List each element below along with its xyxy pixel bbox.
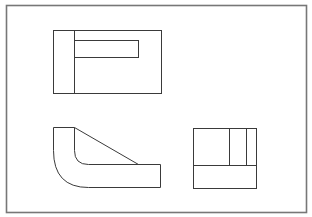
top-view-outline <box>54 31 162 94</box>
top-view <box>54 31 162 94</box>
front-view <box>54 128 161 188</box>
orthographic-drawing <box>0 0 312 217</box>
side-view <box>194 129 257 189</box>
front-view-outline <box>54 128 161 188</box>
side-view-outline <box>194 129 257 189</box>
top-view-slot <box>75 41 139 58</box>
drawing-frame <box>7 6 307 213</box>
front-view-rib-diagonal <box>75 128 139 165</box>
